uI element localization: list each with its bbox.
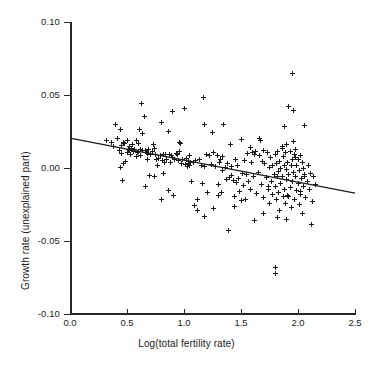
y-tick-label: 0.10	[41, 17, 60, 27]
x-tick-label: 2.5	[348, 318, 361, 328]
data-point	[216, 193, 221, 198]
data-point	[290, 71, 295, 76]
data-point	[138, 153, 143, 158]
data-point	[125, 138, 130, 143]
data-point	[309, 222, 314, 227]
data-point	[278, 181, 283, 186]
data-point	[115, 136, 120, 141]
data-point	[228, 142, 233, 147]
data-point	[261, 211, 266, 216]
scatter-plot-figure: Growth rate (unexplained part) 0.100.050…	[0, 0, 373, 367]
data-point	[302, 172, 307, 177]
data-point	[242, 158, 247, 163]
data-point	[257, 136, 262, 141]
data-point	[145, 157, 150, 162]
data-point	[257, 153, 262, 158]
data-point	[186, 161, 191, 166]
data-point	[311, 174, 316, 179]
data-point	[282, 124, 287, 129]
y-tick-label: 0.05	[41, 90, 60, 100]
data-point	[286, 194, 291, 199]
data-point	[243, 197, 248, 202]
data-point	[294, 163, 299, 168]
data-point	[305, 179, 310, 184]
data-point	[252, 152, 257, 157]
data-point	[123, 159, 128, 164]
data-point	[205, 190, 210, 195]
y-tick-label: -0.05	[38, 236, 60, 246]
data-point	[307, 187, 312, 192]
x-tick-label: 1.0	[177, 318, 190, 328]
data-point	[289, 163, 294, 168]
data-point	[159, 120, 164, 125]
data-point	[235, 163, 240, 168]
data-point	[236, 176, 241, 181]
data-point	[210, 130, 215, 135]
data-point	[152, 146, 157, 151]
data-point	[143, 184, 148, 189]
data-point	[229, 164, 234, 169]
data-point	[256, 170, 261, 175]
x-tick-label: 0.5	[120, 318, 133, 328]
x-tick-label: 1.5	[234, 318, 247, 328]
x-tick-mark	[355, 309, 356, 315]
data-point	[159, 197, 164, 202]
data-point	[273, 271, 278, 276]
data-point	[297, 202, 302, 207]
data-point	[248, 187, 253, 192]
data-point	[239, 198, 244, 203]
data-point	[216, 182, 221, 187]
data-point	[213, 164, 218, 169]
data-point	[302, 123, 307, 128]
data-point	[155, 163, 160, 168]
data-point	[211, 206, 216, 211]
data-point	[252, 218, 257, 223]
data-point	[266, 184, 271, 189]
data-point	[284, 142, 289, 147]
data-point	[140, 131, 145, 136]
data-point	[254, 191, 259, 196]
data-point	[291, 108, 296, 113]
data-point	[166, 129, 171, 134]
data-point	[298, 153, 303, 158]
data-point	[170, 109, 175, 114]
data-point	[119, 151, 124, 156]
data-point	[182, 106, 187, 111]
data-point	[293, 174, 298, 179]
data-point	[290, 179, 295, 184]
data-point	[136, 141, 141, 146]
data-point	[127, 144, 132, 149]
data-point	[261, 195, 266, 200]
data-point	[201, 95, 206, 100]
data-point	[237, 189, 242, 194]
data-point	[277, 208, 282, 213]
data-point	[293, 155, 298, 160]
data-point	[303, 195, 308, 200]
data-point	[275, 215, 280, 220]
data-point	[244, 172, 249, 177]
data-points	[70, 22, 355, 314]
data-point	[306, 163, 311, 168]
x-tick-label: 2.0	[291, 318, 304, 328]
data-point	[202, 164, 207, 169]
data-point	[140, 148, 145, 153]
data-point	[248, 145, 253, 150]
data-point	[273, 265, 278, 270]
data-point	[310, 199, 315, 204]
data-point	[239, 137, 244, 142]
data-point	[246, 179, 251, 184]
data-point	[291, 139, 296, 144]
data-point	[202, 214, 207, 219]
data-point	[232, 194, 237, 199]
plot-area	[70, 22, 355, 314]
data-point	[280, 144, 285, 149]
data-point	[264, 175, 269, 180]
data-point	[284, 177, 289, 182]
y-tick-label: -0.10	[38, 309, 60, 319]
data-point	[300, 211, 305, 216]
data-point	[177, 149, 182, 154]
data-point	[229, 173, 234, 178]
data-point	[171, 193, 176, 198]
data-point	[193, 158, 198, 163]
data-point	[152, 174, 157, 179]
